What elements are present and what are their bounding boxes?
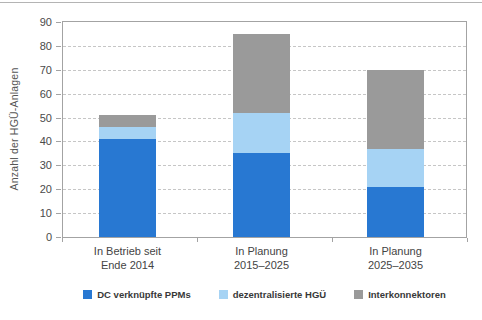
- bar-segment-interkonnektoren: [233, 34, 290, 113]
- y-axis-tick-label: 60: [18, 88, 52, 100]
- legend-label: DC verknüpfte PPMs: [97, 289, 190, 300]
- x-axis-category-label-line: In Planung: [197, 245, 327, 259]
- x-axis-category-label-line: Ende 2014: [63, 259, 193, 273]
- bar-segment-dc-verkn-pfte-ppms: [99, 139, 156, 237]
- chart-legend: DC verknüpfte PPMsdezentralisierte HGÜIn…: [62, 289, 467, 300]
- y-axis-tick-label: 10: [18, 207, 52, 219]
- y-axis-tick-mark: [56, 141, 61, 142]
- bar-segment-dc-verkn-pfte-ppms: [233, 153, 290, 237]
- y-axis-title: Anzahl der HGÜ-Anlagen: [8, 68, 20, 191]
- bar-segment-dc-verkn-pfte-ppms: [367, 187, 424, 237]
- y-axis-tick-label: 80: [18, 40, 52, 52]
- bar-segment-dezentralisierte-hg-: [99, 127, 156, 139]
- legend-item: dezentralisierte HGÜ: [219, 289, 326, 300]
- legend-item: Interkonnektoren: [354, 289, 446, 300]
- bar-segment-interkonnektoren: [367, 70, 424, 149]
- legend-label: dezentralisierte HGÜ: [233, 289, 326, 300]
- y-axis-tick-mark: [56, 237, 61, 238]
- x-axis-tick-mark: [467, 238, 468, 242]
- stacked-bar-2: [233, 34, 290, 237]
- y-axis-tick-mark: [56, 189, 61, 190]
- y-axis-tick-label: 20: [18, 183, 52, 195]
- x-axis-category-label: In Planung2015–2025: [197, 245, 327, 272]
- y-axis-tick-mark: [56, 118, 61, 119]
- page-top-rule: [0, 2, 482, 3]
- bar-segment-interkonnektoren: [99, 115, 156, 127]
- y-axis-tick-label: 0: [18, 231, 52, 243]
- bar-segment-dezentralisierte-hg-: [233, 113, 290, 154]
- x-axis-tick-mark: [332, 238, 333, 242]
- legend-swatch: [219, 290, 228, 299]
- x-axis-category-label: In Planung2025–2035: [331, 245, 461, 272]
- plot-area: [62, 21, 467, 238]
- y-axis-tick-label: 50: [18, 112, 52, 124]
- legend-swatch: [354, 290, 363, 299]
- y-axis-tick-mark: [56, 22, 61, 23]
- y-axis-tick-label: 30: [18, 159, 52, 171]
- y-axis-tick-mark: [56, 213, 61, 214]
- y-axis-tick-mark: [56, 70, 61, 71]
- legend-swatch: [83, 290, 92, 299]
- y-axis-tick-label: 70: [18, 64, 52, 76]
- stacked-bar-3: [367, 70, 424, 237]
- y-axis-tick-mark: [56, 165, 61, 166]
- y-axis-tick-label: 90: [18, 16, 52, 28]
- bar-segment-dezentralisierte-hg-: [367, 149, 424, 187]
- x-axis-category-label: In Betrieb seitEnde 2014: [63, 245, 193, 272]
- stacked-bar-1: [99, 115, 156, 237]
- x-axis-category-label-line: In Planung: [331, 245, 461, 259]
- x-axis-tick-mark: [197, 238, 198, 242]
- x-axis-category-label-line: In Betrieb seit: [63, 245, 193, 259]
- legend-label: Interkonnektoren: [368, 289, 446, 300]
- x-axis-category-label-line: 2025–2035: [331, 259, 461, 273]
- x-axis-category-label-line: 2015–2025: [197, 259, 327, 273]
- y-axis-tick-label: 40: [18, 135, 52, 147]
- y-axis-tick-mark: [56, 46, 61, 47]
- x-axis-tick-mark: [62, 238, 63, 242]
- legend-item: DC verknüpfte PPMs: [83, 289, 190, 300]
- y-axis-tick-mark: [56, 94, 61, 95]
